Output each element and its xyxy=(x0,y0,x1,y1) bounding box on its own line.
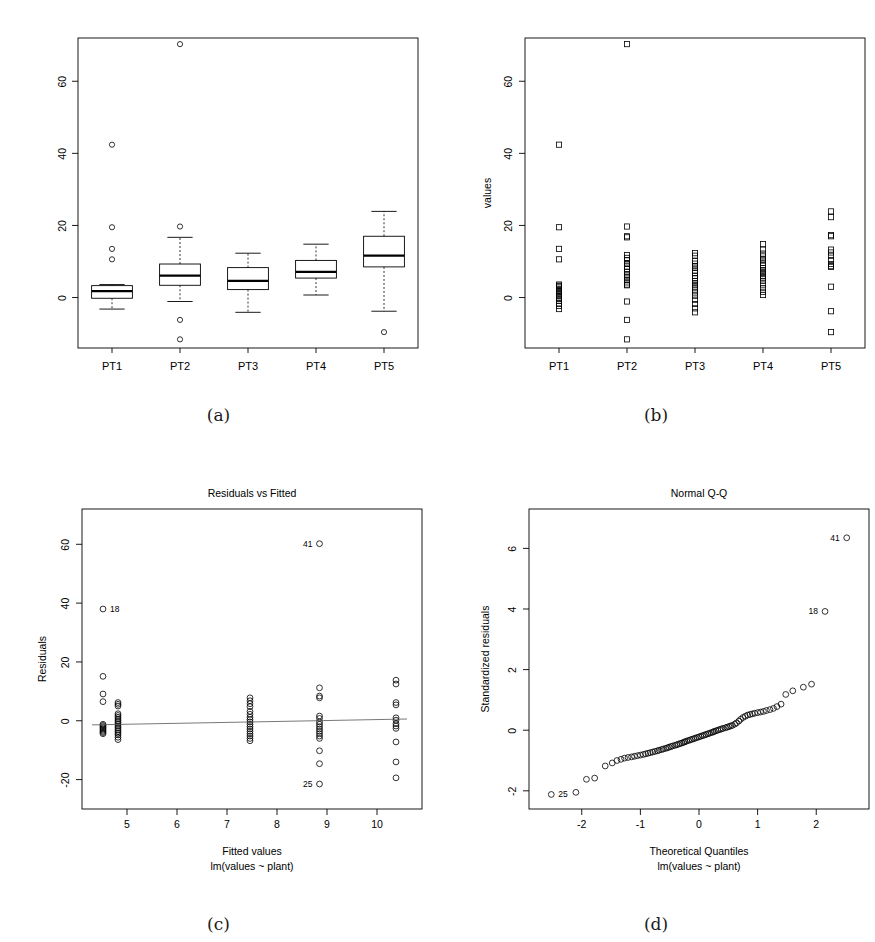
data-point-circle xyxy=(809,681,815,687)
data-point-circle xyxy=(822,609,828,615)
chart-text: PT2 xyxy=(170,360,190,372)
chart-text: PT5 xyxy=(374,360,394,372)
chart-text: 41 xyxy=(830,533,840,543)
chart-text: 7 xyxy=(224,818,230,830)
outlier-point xyxy=(109,142,114,147)
boxplot-box xyxy=(228,253,269,312)
panel-b-cell: 0204060valuesPT1PT2PT3PT4PT5 (b) xyxy=(437,0,875,471)
chart-text: PT3 xyxy=(238,360,258,372)
data-point-circle xyxy=(584,776,590,782)
boxplot-box xyxy=(92,142,133,309)
outlier-point xyxy=(177,42,182,47)
boxplot-chart: 0204060PT1PT2PT3PT4PT5 xyxy=(0,0,437,400)
chart-text: PT4 xyxy=(753,360,773,372)
chart-text: 10 xyxy=(371,818,383,830)
chart-text: PT1 xyxy=(549,360,569,372)
chart-text: 0 xyxy=(506,728,518,734)
chart-text: Standardized residuals xyxy=(479,606,491,713)
data-point-square xyxy=(556,246,561,251)
outlier-point xyxy=(177,317,182,322)
data-point-circle xyxy=(393,775,399,781)
data-point-circle xyxy=(393,739,399,745)
chart-text: 60 xyxy=(59,539,71,551)
data-point-circle xyxy=(100,673,106,679)
data-point-circle xyxy=(783,692,789,698)
outlier-point xyxy=(109,225,114,230)
chart-text: Theoretical Quantiles xyxy=(649,845,748,857)
chart-text: Fitted values xyxy=(222,845,282,857)
data-point-square xyxy=(760,289,765,294)
data-point-circle xyxy=(614,758,620,764)
chart-text: PT1 xyxy=(102,360,122,372)
strip-column xyxy=(760,242,765,298)
box-iqr xyxy=(296,260,337,278)
box-iqr xyxy=(364,236,405,267)
chart-text: 2 xyxy=(813,818,819,830)
chart-text: 20 xyxy=(56,220,68,232)
data-point-circle xyxy=(592,775,598,781)
data-point-square xyxy=(556,142,561,147)
subfigure-caption-c: (c) xyxy=(0,914,437,934)
chart-text: 5 xyxy=(124,818,130,830)
data-point-square xyxy=(556,257,561,262)
chart-text: Residuals xyxy=(36,636,48,682)
data-point-square xyxy=(624,317,629,322)
outlier-point xyxy=(109,257,114,262)
chart-text: Residuals vs Fitted xyxy=(208,487,297,499)
chart-text: 1 xyxy=(755,818,761,830)
data-point-square xyxy=(624,337,629,342)
chart-text: 40 xyxy=(56,148,68,160)
data-point-circle xyxy=(767,707,773,713)
data-point-circle xyxy=(317,781,323,787)
data-point-circle xyxy=(618,756,624,762)
chart-text: 18 xyxy=(809,606,819,616)
data-point-square xyxy=(828,284,833,289)
boxplot-box xyxy=(160,42,201,342)
panel-c-cell: Residuals vs Fitted-2002040605678910Resi… xyxy=(0,471,437,942)
chart-text: 4 xyxy=(506,606,518,612)
outlier-point xyxy=(177,337,182,342)
data-point-circle xyxy=(100,691,106,697)
data-point-square xyxy=(828,309,833,314)
strip-column xyxy=(624,42,629,342)
chart-text: 40 xyxy=(59,598,71,610)
chart-text: 0 xyxy=(502,295,514,301)
data-point-circle xyxy=(548,792,554,798)
strip-column xyxy=(556,142,561,312)
data-point-square xyxy=(828,209,833,214)
chart-text: 20 xyxy=(59,656,71,668)
normal-qq-chart: Normal Q-Q-20246-2-1012Standardized resi… xyxy=(437,471,875,911)
chart-text: 6 xyxy=(506,546,518,552)
chart-text: -1 xyxy=(636,818,645,830)
chart-text: 60 xyxy=(502,76,514,88)
chart-text: PT3 xyxy=(685,360,705,372)
plot-frame-c xyxy=(82,509,422,809)
chart-text: 8 xyxy=(274,818,280,830)
data-point-square xyxy=(624,299,629,304)
data-point-circle xyxy=(100,606,106,612)
data-point-square xyxy=(760,272,765,277)
data-point-circle xyxy=(317,541,323,547)
data-point-circle xyxy=(800,684,806,690)
outlier-point xyxy=(381,330,386,335)
panel-a-cell: 0204060PT1PT2PT3PT4PT5 (a) xyxy=(0,0,437,471)
data-point-square xyxy=(692,293,697,298)
residuals-vs-fitted-chart: Residuals vs Fitted-2002040605678910Resi… xyxy=(0,471,437,911)
data-point-square xyxy=(692,310,697,315)
chart-text: 6 xyxy=(174,818,180,830)
data-point-circle xyxy=(393,759,399,765)
data-point-square xyxy=(760,292,765,297)
chart-text: values xyxy=(481,178,493,208)
chart-text: 0 xyxy=(59,718,71,724)
chart-text: 18 xyxy=(110,604,120,614)
boxplot-box xyxy=(296,244,337,295)
data-point-circle xyxy=(100,699,106,705)
chart-text: 41 xyxy=(303,539,313,549)
chart-text: -20 xyxy=(59,772,71,787)
data-point-square xyxy=(760,242,765,247)
data-point-square xyxy=(556,306,561,311)
data-point-square xyxy=(624,224,629,229)
chart-text: Normal Q-Q xyxy=(671,487,728,499)
data-point-circle xyxy=(393,681,399,687)
chart-text: 40 xyxy=(502,148,514,160)
